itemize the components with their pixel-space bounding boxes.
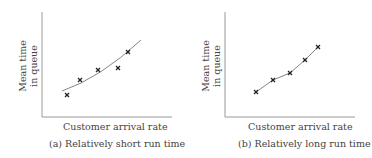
data-point-cross-icon [271,78,275,82]
x-axis-label: Customer arrival rate [248,121,353,132]
data-point-cross-icon [254,90,258,94]
y-axis-label: Mean time in queue [17,36,39,96]
data-point-cross-icon [78,78,82,82]
data-point-cross-icon [316,45,320,49]
y-axis-label-line2: in queue [28,36,39,96]
y-axis-label-line1: Mean time [200,36,211,96]
figure-caption: (b) Relatively long run time [238,138,371,149]
figure-caption: (a) Relatively short run time [49,138,185,149]
panel-a: Mean time in queue Customer arrival rate… [0,0,186,158]
data-point-cross-icon [65,93,69,97]
fit-curve [256,47,318,92]
data-point-cross-icon [126,50,130,54]
y-axis-label-line1: Mean time [17,36,28,96]
y-axis-label: Mean time in queue [200,36,222,96]
x-axis-label: Customer arrival rate [63,121,168,132]
data-point-cross-icon [96,68,100,72]
y-axis-label-line2: in queue [211,36,222,96]
panel-b: Mean time in queue Customer arrival rate… [186,0,372,158]
data-point-cross-icon [116,66,120,70]
data-point-cross-icon [288,71,292,75]
data-point-cross-icon [303,58,307,62]
fit-curve [62,40,141,91]
